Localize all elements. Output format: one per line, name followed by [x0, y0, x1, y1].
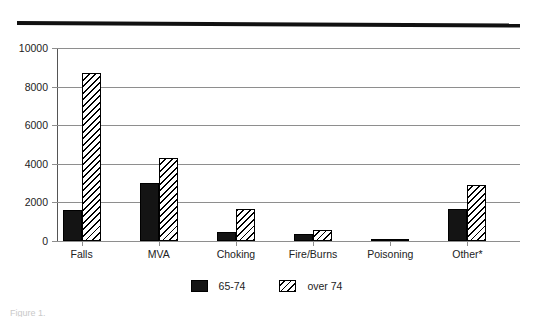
x-tick-2 — [236, 241, 237, 246]
x-axis-label-other: Other* — [452, 249, 482, 260]
x-tick-5 — [467, 241, 468, 246]
bar-group-other: Other* — [448, 48, 486, 241]
bar-mva-over-74 — [159, 158, 178, 241]
y-tick-2000 — [52, 202, 57, 203]
x-axis-label-poisoning: Poisoning — [367, 249, 413, 260]
figure-caption-clipped: Figure 1. — [10, 308, 46, 317]
bar-choking-65-74 — [217, 232, 236, 241]
bar-group-fire-burns: Fire/Burns — [294, 48, 332, 241]
y-axis-line — [57, 48, 58, 241]
plot-area: 0200040006000800010000FallsMVAChokingFir… — [57, 48, 520, 241]
y-tick-10000 — [52, 48, 57, 49]
bar-poisoning-65-74 — [371, 239, 390, 241]
bar-group-mva: MVA — [140, 48, 178, 241]
x-tick-1 — [159, 241, 160, 246]
bar-other-65-74 — [448, 209, 467, 241]
bar-falls-65-74 — [63, 210, 82, 241]
bar-fire-burns-over-74 — [313, 230, 332, 241]
bar-fire-burns-65-74 — [294, 234, 313, 241]
y-axis-label-2000: 2000 — [25, 197, 48, 208]
chart-legend: 65-74 over 74 — [0, 280, 533, 292]
legend-label-65-74: 65-74 — [219, 281, 246, 292]
gridline-0 — [57, 241, 520, 242]
legend-swatch-hatch-icon — [279, 280, 296, 292]
x-axis-label-choking: Choking — [217, 249, 256, 260]
bar-choking-over-74 — [236, 209, 255, 241]
x-tick-3 — [313, 241, 314, 246]
y-tick-8000 — [52, 87, 57, 88]
y-tick-0 — [52, 241, 57, 242]
bar-group-falls: Falls — [63, 48, 101, 241]
bar-group-poisoning: Poisoning — [371, 48, 409, 241]
legend-item-over-74: over 74 — [279, 280, 342, 292]
y-axis-label-6000: 6000 — [25, 120, 48, 131]
bar-other-over-74 — [467, 185, 486, 241]
x-axis-label-fire-burns: Fire/Burns — [289, 249, 337, 260]
top-rule-divider — [17, 21, 520, 27]
y-axis-label-0: 0 — [42, 236, 48, 247]
x-axis-label-mva: MVA — [148, 249, 170, 260]
y-tick-6000 — [52, 125, 57, 126]
legend-label-over-74: over 74 — [307, 281, 342, 292]
x-tick-4 — [390, 241, 391, 246]
x-tick-0 — [82, 241, 83, 246]
bar-group-choking: Choking — [217, 48, 255, 241]
bar-mva-65-74 — [140, 183, 159, 241]
y-tick-4000 — [52, 164, 57, 165]
bar-poisoning-over-74 — [390, 239, 409, 242]
legend-swatch-solid-icon — [191, 280, 208, 292]
legend-item-65-74: 65-74 — [191, 280, 246, 292]
y-axis-label-4000: 4000 — [25, 159, 48, 170]
bar-falls-over-74 — [82, 73, 101, 241]
y-axis-label-10000: 10000 — [19, 43, 48, 54]
y-axis-label-8000: 8000 — [25, 81, 48, 92]
x-axis-label-falls: Falls — [70, 249, 92, 260]
